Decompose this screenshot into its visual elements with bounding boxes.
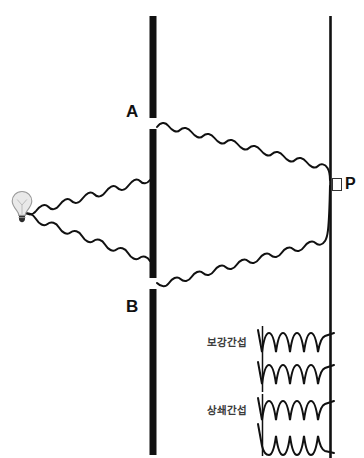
wave-slit-b-to-point-p xyxy=(157,186,330,286)
inset-destructive-interference xyxy=(258,394,334,456)
point-p-label: P xyxy=(345,175,356,193)
constructive-interference-label: 보강간섭 xyxy=(207,337,247,348)
wave-slit-a-to-point-p xyxy=(157,123,330,180)
inset-constructive-wave-1 xyxy=(258,330,334,352)
point-p-marker-box xyxy=(332,178,342,191)
slit-a-label: A xyxy=(126,103,138,120)
inset-constructive-interference xyxy=(258,326,334,392)
light-bulb-icon xyxy=(12,192,32,223)
wave-source-to-slit-b xyxy=(24,213,150,261)
barrier-segment-bottom xyxy=(150,289,157,455)
inset-destructive-wave-1 xyxy=(258,398,334,420)
slit-b-label: B xyxy=(126,298,138,315)
interference-diagram: A B P 보강간섭 상쇄간섭 xyxy=(0,0,364,458)
inset-constructive-wave-2 xyxy=(258,362,334,384)
barrier-segment-top xyxy=(150,16,157,118)
barrier-plate xyxy=(150,16,157,455)
destructive-interference-label: 상쇄간섭 xyxy=(207,405,247,416)
barrier-segment-middle xyxy=(150,129,157,278)
diagram-canvas xyxy=(0,0,364,458)
inset-destructive-wave-2 xyxy=(258,424,334,455)
wave-source-to-slit-a xyxy=(24,179,150,214)
point-p-label-group: P xyxy=(332,175,356,193)
